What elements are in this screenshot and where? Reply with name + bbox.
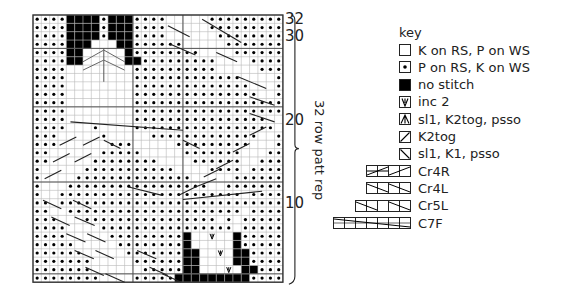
- no-stitch-cell: [116, 32, 124, 40]
- purl-dot: [260, 26, 263, 29]
- no-stitch-cell: [183, 249, 191, 257]
- purl-dot: [36, 235, 39, 238]
- purl-dot: [235, 34, 238, 37]
- purl-dot: [161, 251, 164, 254]
- purl-dot: [119, 243, 122, 246]
- row-label-32: 32: [285, 12, 304, 27]
- purl-dot: [161, 243, 164, 246]
- no-stitch-cell: [125, 15, 133, 23]
- purl-dot: [277, 34, 280, 37]
- purl-dot: [69, 260, 72, 263]
- purl-dot: [61, 34, 64, 37]
- purl-dot: [136, 260, 139, 263]
- no-stitch-cell: [191, 266, 199, 274]
- purl-dot: [136, 243, 139, 246]
- purl-dot: [36, 26, 39, 29]
- purl-dot: [136, 26, 139, 29]
- purl-dot: [161, 260, 164, 263]
- purl-dot: [244, 34, 247, 37]
- purl-dot: [277, 235, 280, 238]
- purl-dot: [277, 276, 280, 279]
- purl-dot: [36, 251, 39, 254]
- purl-dot: [252, 260, 255, 263]
- purl-dot: [269, 34, 272, 37]
- no-stitch-cell: [108, 32, 116, 40]
- no-stitch-icon: [399, 79, 412, 92]
- purl-dot: [136, 235, 139, 238]
- no-stitch-cell: [183, 274, 191, 282]
- purl-dot: [61, 18, 64, 21]
- purl-dot: [61, 251, 64, 254]
- no-stitch-cell: [191, 274, 199, 282]
- purl-dot: [252, 276, 255, 279]
- purl-dot: [235, 18, 238, 21]
- purl-dot: [44, 235, 47, 238]
- purl-dot: [260, 260, 263, 263]
- purl-dot: [161, 18, 164, 21]
- no-stitch-cell: [191, 257, 199, 265]
- key-item-no-stitch: no stitch: [0, 77, 570, 93]
- no-stitch-cell: [241, 257, 249, 265]
- purl-dot: [269, 268, 272, 271]
- purl-dot: [36, 268, 39, 271]
- key-label: sl1, K1, psso: [418, 146, 500, 161]
- key-label: sl1, K2tog, psso: [418, 112, 521, 127]
- key-label: K2tog: [418, 129, 456, 144]
- purl-dot: [161, 34, 164, 37]
- purl-dot: [260, 251, 263, 254]
- key-title: key: [399, 25, 422, 40]
- purl-dot: [52, 26, 55, 29]
- purl-dot: [177, 268, 180, 271]
- knit-icon: [399, 44, 412, 57]
- no-stitch-cell: [66, 32, 74, 40]
- purl-dot: [244, 243, 247, 246]
- purl-dot: [36, 276, 39, 279]
- no-stitch-cell: [91, 23, 99, 31]
- purl-dot: [219, 34, 222, 37]
- no-stitch-cell: [183, 240, 191, 248]
- purl-dot: [144, 260, 147, 263]
- no-stitch-cell: [233, 249, 241, 257]
- purl-dot: [269, 18, 272, 21]
- purl-dot: [161, 26, 164, 29]
- no-stitch-cell: [200, 274, 208, 282]
- no-stitch-cell: [83, 32, 91, 40]
- no-stitch-cell: [108, 23, 116, 31]
- purl-dot: [52, 18, 55, 21]
- purl-dot: [44, 18, 47, 21]
- purl-dot: [52, 235, 55, 238]
- purl-dot: [36, 260, 39, 263]
- purl-dot: [219, 26, 222, 29]
- purl-dot: [144, 276, 147, 279]
- key-label: Cr4L: [418, 181, 448, 196]
- purl-dot: [277, 268, 280, 271]
- purl-dot: [77, 276, 80, 279]
- purl-dot: [77, 268, 80, 271]
- no-stitch-cell: [233, 274, 241, 282]
- no-stitch-cell: [66, 15, 74, 23]
- purl-dot: [252, 243, 255, 246]
- purl-dot: [152, 260, 155, 263]
- key-item-sl1-k2tog-psso: sl1, K2tog, psso: [0, 111, 570, 127]
- purl-dot: [152, 243, 155, 246]
- purl-dot: [36, 243, 39, 246]
- purl-dot: [86, 260, 89, 263]
- purl-dot: [52, 260, 55, 263]
- purl-dot: [36, 34, 39, 37]
- no-stitch-cell: [91, 32, 99, 40]
- no-stitch-cell: [183, 266, 191, 274]
- purl-dot: [277, 260, 280, 263]
- purl-dot: [260, 268, 263, 271]
- purl-dot: [169, 243, 172, 246]
- key-item-c7f: C7F: [0, 215, 570, 231]
- purl-dot: [69, 276, 72, 279]
- purl-dot: [61, 260, 64, 263]
- no-stitch-cell: [75, 23, 83, 31]
- purl-dot: [244, 26, 247, 29]
- purl-dot: [252, 18, 255, 21]
- purl-dot: [169, 251, 172, 254]
- purl-dot: [127, 251, 130, 254]
- purl-dot: [136, 34, 139, 37]
- purl-dot: [210, 18, 213, 21]
- purl-dot: [252, 251, 255, 254]
